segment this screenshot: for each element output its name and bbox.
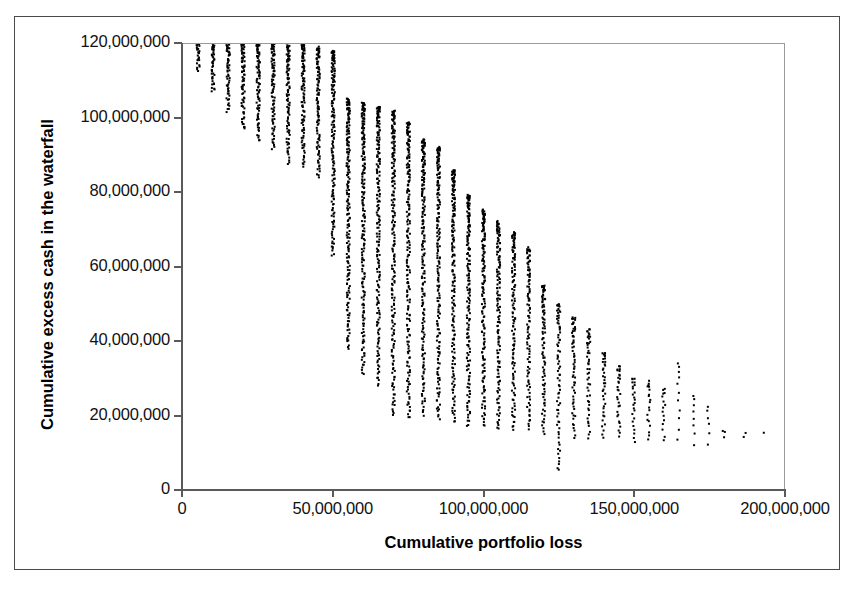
y-tick-mark	[174, 42, 182, 44]
x-tick-label: 50,000,000	[292, 499, 373, 518]
data-points-layer	[183, 44, 784, 489]
y-tick-mark	[174, 117, 182, 119]
plot-area	[182, 43, 785, 490]
y-tick-label: 40,000,000	[89, 330, 170, 349]
y-tick-label: 100,000,000	[80, 107, 170, 126]
x-tick-label: 0	[178, 499, 187, 518]
y-tick-mark	[174, 415, 182, 417]
y-tick-mark	[174, 340, 182, 342]
scatter-chart-figure: 020,000,00040,000,00060,000,00080,000,00…	[0, 0, 856, 589]
y-axis-title: Cumulative excess cash in the waterfall	[38, 40, 57, 510]
x-tick-mark	[332, 489, 334, 497]
y-tick-label: 20,000,000	[89, 405, 170, 424]
x-axis-title: Cumulative portfolio loss	[182, 533, 785, 552]
y-tick-mark	[174, 191, 182, 193]
x-tick-mark	[483, 489, 485, 497]
y-tick-label: 80,000,000	[89, 181, 170, 200]
x-tick-mark	[633, 489, 635, 497]
y-tick-label: 0	[161, 479, 170, 498]
x-tick-label: 100,000,000	[439, 499, 529, 518]
y-tick-label: 120,000,000	[80, 32, 170, 51]
x-tick-label: 150,000,000	[589, 499, 679, 518]
x-tick-mark	[181, 489, 183, 497]
x-tick-label: 200,000,000	[740, 499, 830, 518]
y-tick-label: 60,000,000	[89, 256, 170, 275]
y-tick-mark	[174, 266, 182, 268]
x-tick-mark	[784, 489, 786, 497]
